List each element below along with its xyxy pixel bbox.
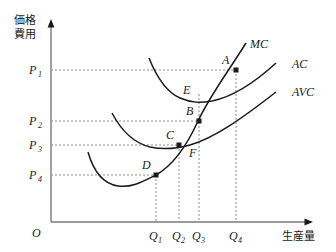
x-tick-sub-q4: 4 bbox=[238, 236, 242, 245]
y-tick-label-p4: P 4 bbox=[28, 168, 42, 184]
cost-curve-figure: 価格 費用 生産量 O P 1 P 2 P 3 P 4 bbox=[0, 0, 336, 252]
x-tick-base-q1: Q bbox=[149, 229, 158, 243]
point-marker-a bbox=[234, 68, 239, 73]
y-tick-sub-p3: 3 bbox=[37, 145, 42, 154]
curve-label-mc: MC bbox=[249, 37, 269, 51]
axes-group bbox=[48, 19, 313, 225]
x-tick-label-q2: Q 2 bbox=[172, 229, 185, 245]
y-tick-label-p2: P 2 bbox=[28, 114, 42, 130]
x-tick-sub-q3: 3 bbox=[200, 236, 205, 245]
point-label-b: B bbox=[186, 104, 194, 118]
point-markers-group bbox=[154, 68, 239, 178]
y-tick-base-p2: P bbox=[28, 114, 37, 128]
x-axis-title: 生産量 bbox=[282, 229, 315, 243]
point-label-e: E bbox=[182, 83, 191, 97]
y-tick-sub-p4: 4 bbox=[38, 175, 42, 184]
y-tick-labels-group: P 1 P 2 P 3 P 4 bbox=[28, 63, 42, 184]
x-tick-base-q2: Q bbox=[172, 229, 181, 243]
x-tick-base-q4: Q bbox=[229, 229, 238, 243]
curve-labels-group: MC AC AVC bbox=[249, 37, 315, 99]
y-axis-arrowhead bbox=[48, 19, 55, 28]
y-tick-base-p3: P bbox=[28, 138, 37, 152]
x-tick-sub-q2: 2 bbox=[181, 236, 185, 245]
point-label-f: F bbox=[188, 146, 197, 160]
y-tick-base-p4: P bbox=[28, 168, 37, 182]
x-tick-sub-q1: 1 bbox=[158, 236, 162, 245]
x-tick-label-q3: Q 3 bbox=[192, 229, 205, 245]
y-tick-label-p1: P 1 bbox=[28, 63, 42, 79]
y-tick-label-p3: P 3 bbox=[28, 138, 42, 154]
x-axis-arrowhead bbox=[305, 219, 314, 226]
curves-group bbox=[88, 43, 276, 186]
point-marker-c bbox=[177, 143, 182, 148]
curve-label-avc: AVC bbox=[291, 85, 315, 99]
y-tick-sub-p1: 1 bbox=[38, 70, 42, 79]
y-tick-sub-p2: 2 bbox=[38, 121, 42, 130]
y-axis-title-line1: 価格 bbox=[14, 13, 36, 27]
point-label-c: C bbox=[166, 128, 175, 142]
point-marker-d bbox=[154, 173, 159, 178]
x-tick-label-q4: Q 4 bbox=[229, 229, 242, 245]
point-label-d: D bbox=[141, 158, 151, 172]
y-axis-title-line2: 費用 bbox=[14, 27, 36, 41]
avc-curve bbox=[112, 92, 276, 149]
point-label-a: A bbox=[221, 53, 230, 67]
curve-label-ac: AC bbox=[291, 57, 308, 71]
x-tick-base-q3: Q bbox=[192, 229, 201, 243]
point-marker-b bbox=[197, 119, 202, 124]
x-tick-label-q1: Q 1 bbox=[149, 229, 162, 245]
origin-label: O bbox=[32, 226, 41, 240]
y-tick-base-p1: P bbox=[28, 63, 37, 77]
x-tick-labels-group: Q 1 Q 2 Q 3 Q 4 bbox=[149, 229, 242, 245]
